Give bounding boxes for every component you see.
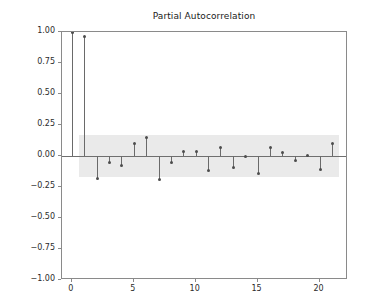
stem-marker-lag-16 — [269, 146, 272, 149]
x-tick — [133, 279, 134, 282]
x-tick-label: 15 — [252, 284, 262, 293]
y-tick-label: 0.50 — [8, 88, 55, 97]
stem-marker-lag-20 — [319, 168, 322, 171]
x-tick — [319, 279, 320, 282]
stem-lag-7 — [159, 156, 160, 180]
x-tick-label: 0 — [68, 284, 73, 293]
stem-lag-15 — [258, 156, 259, 173]
chart-title: Partial Autocorrelation — [61, 11, 347, 21]
plot-area — [61, 31, 347, 279]
stem-marker-lag-21 — [331, 142, 334, 145]
stem-lag-2 — [97, 156, 98, 178]
stem-marker-lag-3 — [108, 161, 111, 164]
x-tick — [195, 279, 196, 282]
x-tick-label: 20 — [313, 284, 323, 293]
x-tick — [257, 279, 258, 282]
y-tick-label: 0.00 — [8, 150, 55, 159]
y-tick-label: 1.00 — [8, 26, 55, 35]
stem-lag-6 — [146, 137, 147, 156]
y-tick-label: 0.75 — [8, 57, 55, 66]
stem-marker-lag-8 — [170, 161, 173, 164]
stem-marker-lag-9 — [182, 150, 185, 153]
stem-marker-lag-10 — [195, 150, 198, 153]
x-tick — [71, 279, 72, 282]
y-tick-label: −0.50 — [8, 212, 55, 221]
stem-marker-lag-2 — [96, 177, 99, 180]
partial-autocorrelation-figure: Partial Autocorrelation 1.000.750.500.25… — [0, 0, 366, 306]
stem-marker-lag-5 — [133, 142, 136, 145]
y-tick-label: 0.25 — [8, 119, 55, 128]
stem-marker-lag-13 — [232, 166, 235, 169]
stem-marker-lag-15 — [257, 172, 260, 175]
y-tick-label: −0.25 — [8, 181, 55, 190]
stem-marker-lag-7 — [158, 178, 161, 181]
y-tick-label: −0.75 — [8, 243, 55, 252]
stem-marker-lag-18 — [294, 159, 297, 162]
stem-lag-5 — [134, 144, 135, 156]
stem-lag-1 — [84, 37, 85, 156]
stem-lag-0 — [72, 32, 73, 156]
stem-lag-21 — [332, 144, 333, 156]
x-tick-label: 10 — [190, 284, 200, 293]
stem-marker-lag-0 — [71, 31, 74, 34]
y-tick-label: −1.00 — [8, 274, 55, 283]
y-tick — [58, 279, 61, 280]
x-tick-label: 5 — [130, 284, 135, 293]
zero-reference-line — [62, 156, 346, 157]
